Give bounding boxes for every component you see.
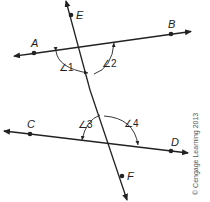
point-a	[32, 51, 37, 56]
angle-4-label: ∠4	[124, 118, 139, 129]
label-a: A	[30, 37, 38, 49]
label-f: F	[127, 170, 135, 182]
line-ef	[66, 1, 127, 200]
label-e: E	[76, 9, 84, 21]
line-ab	[14, 32, 191, 57]
label-c: C	[27, 118, 35, 130]
point-b	[169, 32, 174, 37]
angle-3-label: ∠3	[78, 119, 93, 130]
point-c	[28, 132, 33, 137]
point-d	[169, 149, 174, 154]
point-e	[69, 13, 74, 18]
geometry-diagram: A B C D E F ∠1 ∠2 ∠3 ∠4	[0, 0, 210, 202]
label-d: D	[171, 136, 179, 148]
angle-2-label: ∠2	[102, 58, 117, 69]
angle-1-label: ∠1	[59, 62, 74, 73]
point-f	[120, 174, 125, 179]
copyright-text: © Cengage Learning 2013	[192, 113, 199, 195]
label-b: B	[168, 18, 175, 30]
